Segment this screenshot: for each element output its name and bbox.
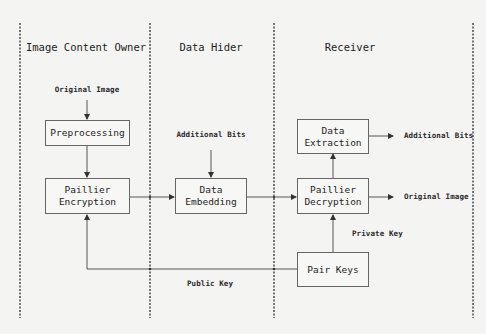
lane-title-image-content-owner: Image Content Owner — [26, 41, 146, 53]
box-paillier-decryption-line2: Decryption — [304, 196, 361, 208]
box-preprocessing-label: Preprocessing — [50, 127, 124, 139]
box-pair-keys-label: Pair Keys — [307, 264, 358, 276]
box-paillier-encryption-line2: Encryption — [59, 196, 116, 208]
box-data-embedding-line1: Data — [200, 184, 223, 196]
arrow-public-key — [87, 215, 297, 269]
box-paillier-encryption: Paillier Encryption — [45, 178, 130, 214]
box-pair-keys: Pair Keys — [297, 252, 369, 287]
box-data-embedding: Data Embedding — [175, 178, 247, 214]
box-data-extraction-line2: Extraction — [304, 137, 361, 149]
box-data-extraction-line1: Data — [322, 125, 345, 137]
label-additional-bits-input: Additional Bits — [176, 130, 245, 139]
label-additional-bits-output: Additional Bits — [404, 131, 473, 140]
diagram-canvas: Image Content Owner Data Hider Receiver … — [0, 0, 486, 334]
label-private-key: Private Key — [352, 229, 403, 238]
box-data-extraction: Data Extraction — [297, 119, 369, 154]
label-original-image-output: Original Image — [404, 192, 469, 201]
box-data-embedding-line2: Embedding — [185, 196, 236, 208]
box-paillier-encryption-line1: Paillier — [65, 184, 111, 196]
lane-title-receiver: Receiver — [325, 41, 376, 53]
box-preprocessing: Preprocessing — [45, 120, 130, 146]
label-public-key: Public Key — [187, 279, 233, 288]
box-paillier-decryption-line1: Paillier — [310, 184, 356, 196]
label-original-image-input: Original Image — [55, 85, 120, 94]
box-paillier-decryption: Paillier Decryption — [297, 178, 369, 214]
lane-title-data-hider: Data Hider — [179, 41, 242, 53]
lane-dividers — [20, 23, 473, 318]
